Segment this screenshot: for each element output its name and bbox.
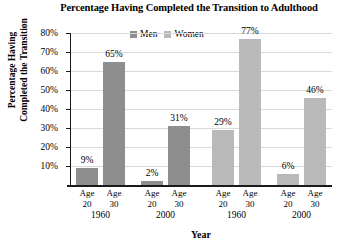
age-value-text: 30 [298, 199, 332, 210]
gridline [70, 33, 332, 34]
y-axis-title-line-1: Percentage Having [7, 0, 19, 150]
y-axis-tick-label: 10% [28, 162, 58, 172]
bar-value-label: 6% [271, 162, 305, 172]
x-axis-year-label: 1960 [71, 210, 131, 220]
x-axis-line [67, 185, 332, 187]
x-axis-year-label: 1960 [207, 210, 267, 220]
y-axis-tick-label: 80% [28, 29, 58, 39]
bar-women-1960-age20 [212, 130, 234, 185]
y-axis-tick [66, 52, 71, 53]
x-axis-age-group: Age30 [162, 188, 196, 209]
bar-value-label: 31% [162, 114, 196, 124]
age-value-text: 30 [162, 199, 196, 210]
age-value-text: 30 [97, 199, 131, 210]
y-axis-tick [66, 33, 71, 34]
bar-men-1960-age20 [76, 168, 98, 185]
y-axis-tick [66, 71, 71, 72]
y-axis-tick-label: 70% [28, 48, 58, 58]
x-axis-year-label: 2000 [136, 210, 196, 220]
y-axis-tick [66, 128, 71, 129]
y-axis-tick-label: 40% [28, 105, 58, 115]
x-axis-age-group: Age30 [298, 188, 332, 209]
age-label-text: Age [298, 188, 332, 199]
bar-value-label: 65% [97, 50, 131, 60]
x-axis-year-label: 2000 [272, 210, 332, 220]
x-axis-title: Year [70, 229, 332, 240]
age-label-text: Age [97, 188, 131, 199]
bar-men-2000-age20 [141, 181, 163, 185]
bar-women-2000-age20 [277, 174, 299, 185]
y-axis-tick [66, 147, 71, 148]
bar-value-label: 46% [298, 86, 332, 96]
bar-value-label: 77% [233, 27, 267, 37]
bar-chart: Percentage Having Completed the Transiti… [0, 0, 340, 249]
x-axis-age-group: Age30 [233, 188, 267, 209]
bar-value-label: 9% [70, 156, 104, 166]
bar-value-label: 2% [135, 169, 169, 179]
y-axis-tick [66, 109, 71, 110]
x-axis-age-group: Age30 [97, 188, 131, 209]
bar-men-1960-age30 [103, 62, 125, 186]
y-axis-tick-label: 20% [28, 143, 58, 153]
bar-value-label: 29% [206, 118, 240, 128]
age-label-text: Age [233, 188, 267, 199]
y-axis-tick-label: 30% [28, 124, 58, 134]
bar-men-2000-age30 [168, 126, 190, 185]
x-axis-labels: Age20Age30Age20Age30Age20Age30Age20Age30… [70, 188, 332, 228]
y-axis-tick-label: 60% [28, 67, 58, 77]
bar-women-2000-age30 [304, 98, 326, 185]
y-axis-tick [66, 90, 71, 91]
chart-title: Percentage Having Completed the Transiti… [40, 2, 338, 13]
age-label-text: Age [162, 188, 196, 199]
plot-area: 10%20%30%40%50%60%70%80%9%65%2%31%29%77%… [70, 33, 332, 185]
y-axis-tick-label: 50% [28, 86, 58, 96]
y-axis-tick [66, 166, 71, 167]
age-value-text: 30 [233, 199, 267, 210]
bar-women-1960-age30 [239, 39, 261, 185]
